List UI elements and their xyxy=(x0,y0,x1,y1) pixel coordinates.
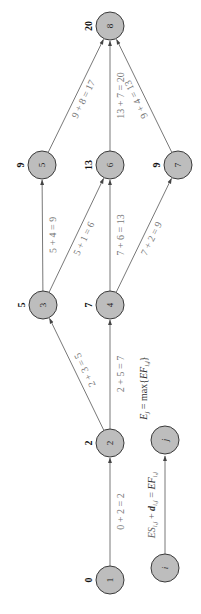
node-es-5: 9 xyxy=(15,163,26,168)
node-es-6: 13 xyxy=(83,160,94,170)
edge-label-5-8: 9 + 8 = 17 xyxy=(69,78,97,120)
node-es-2: 2 xyxy=(83,441,94,446)
node-label-5: 5 xyxy=(37,162,47,167)
node-label-3: 3 xyxy=(38,302,48,307)
node-es-8: 20 xyxy=(83,21,94,31)
edge-2-3 xyxy=(50,318,104,430)
node-es-4: 7 xyxy=(83,303,94,308)
node-label-8: 8 xyxy=(105,23,115,28)
node-label-1: 1 xyxy=(105,578,115,583)
legend-node-formula: Ej = max{EFi,j} xyxy=(138,356,151,420)
edge-label-1-2: 0 + 2 = 2 xyxy=(115,493,126,529)
legend-edge-formula: ESi,j + di,j = EFi,j xyxy=(146,472,159,540)
node-label-2: 2 xyxy=(105,441,115,446)
edge-3-5 xyxy=(42,180,43,291)
edge-label-3-5: 5 + 4 = 9 xyxy=(47,217,58,253)
edge-label-2-4: 2 + 5 = 7 xyxy=(115,356,126,392)
legend: i j ESi,j + di,j = EFi,j Ej = max{EFi,j} xyxy=(138,356,179,582)
network-diagram: 0 + 2 = 22 + 3 = 52 + 5 = 75 + 4 = 95 + … xyxy=(0,0,201,614)
edge-5-8 xyxy=(48,39,103,152)
node-label-6: 6 xyxy=(105,162,115,167)
edge-label-4-6: 7 + 6 = 13 xyxy=(115,214,126,255)
edge-label-2-3: 2 + 3 = 5 xyxy=(72,351,98,388)
legend-node-j-label: j xyxy=(160,438,170,442)
node-es-7: 9 xyxy=(151,163,162,168)
node-label-4: 4 xyxy=(105,302,115,307)
node-label-7: 7 xyxy=(173,162,183,167)
node-es-3: 5 xyxy=(16,303,27,308)
edge-label-6-8: 13 + 7 = 20 xyxy=(115,72,126,118)
node-es-1: 0 xyxy=(83,578,94,583)
